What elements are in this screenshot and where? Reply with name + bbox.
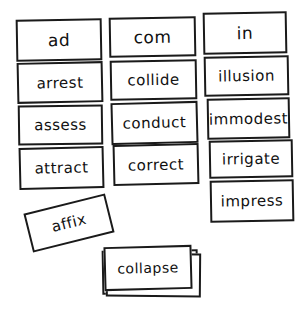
card-label: illusion [218, 67, 275, 86]
deck-top-card[interactable]: collapse [103, 245, 192, 291]
card-label: assess [34, 116, 87, 135]
card-label: impress [221, 191, 284, 210]
card-label: irrigate [222, 149, 281, 168]
card-label: immodest [209, 109, 288, 128]
card-label: correct [128, 155, 184, 174]
card-label: in [237, 23, 254, 43]
word-card[interactable]: attract [19, 146, 105, 190]
word-card[interactable]: arrest [17, 61, 104, 104]
word-card[interactable]: assess [18, 104, 104, 145]
word-card[interactable]: immodest [207, 97, 291, 139]
card-label: affix [50, 210, 89, 236]
card-label: collapse [117, 259, 179, 277]
card-label: arrest [36, 73, 83, 92]
word-card[interactable]: impress [210, 179, 295, 222]
column-header-com: com [109, 16, 197, 58]
word-card[interactable]: illusion [204, 55, 290, 96]
column-header-in: in [203, 11, 288, 54]
card-label: ad [48, 30, 71, 50]
card-label: attract [34, 158, 88, 177]
card-label: collide [127, 71, 179, 90]
word-card[interactable]: correct [113, 143, 200, 186]
column-header-ad: ad [16, 18, 103, 61]
card-label: com [133, 27, 171, 48]
word-card[interactable]: conduct [110, 101, 198, 145]
card-deck[interactable]: collapse [100, 244, 202, 300]
card-label: conduct [122, 113, 186, 133]
word-card[interactable]: collide [110, 59, 198, 101]
word-card[interactable]: irrigate [209, 139, 294, 178]
